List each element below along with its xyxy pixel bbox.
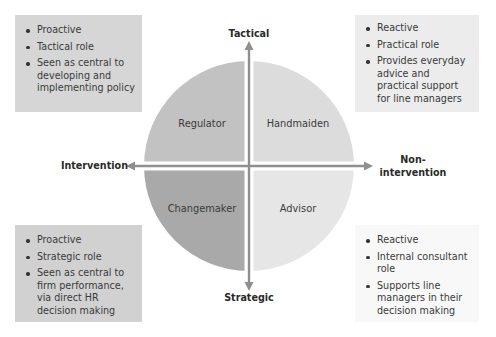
axis-label-intervention: Intervention [58, 160, 128, 171]
axis-label-non-intervention: Non- intervention [375, 153, 451, 179]
arrow-right-icon [364, 162, 373, 171]
axis-label-strategic: Strategic [214, 292, 284, 303]
regulator-quadrant [144, 61, 249, 166]
quadrant-label-regulator: Regulator [157, 118, 247, 129]
axis-label-line: Non- [375, 153, 451, 166]
handmaiden-quadrant [249, 61, 354, 166]
quadrant-label-handmaiden: Handmaiden [253, 118, 343, 129]
advisor-quadrant [249, 166, 354, 271]
axis-label-tactical: Tactical [214, 28, 284, 39]
changemaker-quadrant [144, 166, 249, 271]
quadrant-label-changemaker: Changemaker [157, 203, 247, 214]
quadrant-label-advisor: Advisor [253, 203, 343, 214]
axis-label-line: intervention [375, 166, 451, 179]
arrow-up-icon [245, 41, 254, 50]
arrow-down-icon [245, 282, 254, 291]
